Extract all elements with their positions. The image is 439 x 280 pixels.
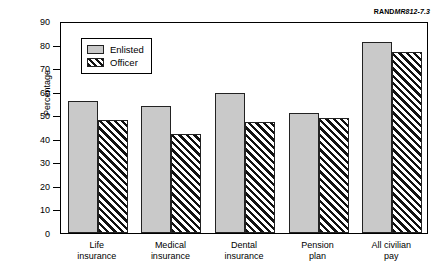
rand-source-tag: RANDMR812-7.3: [374, 7, 430, 16]
bar-chart-figure: RANDMR812-7.3 Percentage 010203040506070…: [0, 0, 439, 280]
y-axis-tick-mark: [53, 163, 60, 164]
y-axis-tick-label: 10: [20, 206, 50, 215]
chart-legend: Enlisted Officer: [81, 38, 152, 74]
y-axis-tick-label: 20: [20, 182, 50, 191]
y-axis-tick-mark: [53, 69, 60, 70]
y-axis-tick-mark: [53, 187, 60, 188]
y-axis-tick-mark: [53, 93, 60, 94]
bar-enlisted: [68, 101, 98, 233]
bar-officer: [171, 134, 201, 233]
bar-officer: [319, 118, 349, 233]
legend-label-enlisted: Enlisted: [110, 44, 144, 55]
x-axis-category-label: Dental insurance: [207, 240, 281, 262]
legend-swatch-officer: [87, 58, 104, 67]
y-axis-tick-mark: [53, 46, 60, 47]
y-axis-tick-label: 80: [20, 41, 50, 50]
x-axis-category-label: Pension plan: [281, 240, 355, 262]
y-axis-tick-label: 60: [20, 88, 50, 97]
y-axis-tick-label: 90: [20, 18, 50, 27]
legend-item-enlisted: Enlisted: [87, 43, 144, 56]
bar-enlisted: [141, 106, 171, 233]
bar-officer: [245, 122, 275, 233]
y-axis-tick-label: 0: [20, 230, 50, 239]
legend-item-officer: Officer: [87, 56, 144, 69]
bar-officer: [98, 120, 128, 233]
y-axis-tick-mark: [53, 116, 60, 117]
bar-enlisted: [215, 93, 245, 233]
legend-label-officer: Officer: [110, 57, 138, 68]
y-axis-tick-label: 30: [20, 159, 50, 168]
x-axis-category-label: All civilian pay: [354, 240, 428, 262]
y-axis-tick-label: 70: [20, 65, 50, 74]
x-axis-category-label: Medical insurance: [134, 240, 208, 262]
legend-swatch-enlisted: [87, 45, 104, 54]
bar-officer: [392, 52, 422, 233]
y-axis-tick-label: 40: [20, 135, 50, 144]
rand-document-id: MR812-7.3: [394, 7, 430, 16]
y-axis-tick-label: 50: [20, 112, 50, 121]
rand-brand-label: RAND: [374, 7, 395, 16]
y-axis-tick-mark: [53, 210, 60, 211]
bar-enlisted: [289, 113, 319, 233]
x-axis-category-label: Life insurance: [60, 240, 134, 262]
bar-enlisted: [362, 42, 392, 233]
y-axis-tick-mark: [53, 140, 60, 141]
